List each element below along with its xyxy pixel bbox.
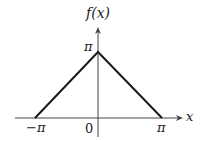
y-axis-label: f(x) [86, 6, 110, 20]
x-tick-zero: 0 [85, 122, 93, 135]
y-tick-pi: π [84, 40, 93, 53]
x-tick-neg-pi: −π [26, 121, 45, 134]
x-tick-pi: π [157, 121, 166, 134]
x-axis-label: x [186, 110, 193, 123]
